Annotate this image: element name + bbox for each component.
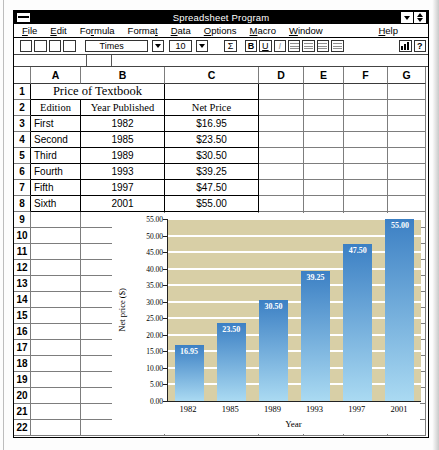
cell-D8[interactable] bbox=[259, 196, 304, 212]
row-header-20[interactable]: 20 bbox=[14, 388, 31, 404]
down-arrow-icon[interactable] bbox=[401, 12, 413, 23]
cell-D7[interactable] bbox=[259, 180, 304, 196]
menu-window[interactable]: Window bbox=[289, 25, 323, 36]
bar-1989[interactable]: 30.50 bbox=[259, 300, 288, 401]
cell-A16[interactable] bbox=[31, 324, 81, 340]
cell-A15[interactable] bbox=[31, 308, 81, 324]
menu-file[interactable]: File bbox=[22, 25, 37, 36]
cell-F5[interactable] bbox=[344, 148, 388, 164]
cell-A5[interactable]: Third bbox=[31, 148, 81, 164]
cell-title-A1[interactable]: Price of Textbook bbox=[31, 84, 165, 100]
row-header-10[interactable]: 10 bbox=[14, 228, 31, 244]
menu-data[interactable]: Data bbox=[171, 25, 191, 36]
cell-B4[interactable]: 1985 bbox=[81, 132, 165, 148]
cell-D1[interactable] bbox=[259, 84, 304, 100]
cell-B3[interactable]: 1982 bbox=[81, 116, 165, 132]
select-all-corner[interactable] bbox=[14, 67, 31, 84]
cell-A3[interactable]: First bbox=[31, 116, 81, 132]
bar-1985[interactable]: 23.50 bbox=[217, 323, 246, 401]
up-down-arrow-icon[interactable] bbox=[414, 12, 426, 23]
cell-B8[interactable]: 2001 bbox=[81, 196, 165, 212]
bold-button[interactable]: B bbox=[245, 40, 257, 52]
cell-A19[interactable] bbox=[31, 372, 81, 388]
cell-B7[interactable]: 1997 bbox=[81, 180, 165, 196]
cell-G5[interactable] bbox=[388, 148, 426, 164]
menu-formula[interactable]: Formula bbox=[80, 25, 115, 36]
cell-G3[interactable] bbox=[388, 116, 426, 132]
row-header-4[interactable]: 4 bbox=[14, 132, 31, 148]
cell-F6[interactable] bbox=[344, 164, 388, 180]
menu-options[interactable]: Options bbox=[204, 25, 237, 36]
row-header-7[interactable]: 7 bbox=[14, 180, 31, 196]
menu-format[interactable]: Format bbox=[128, 25, 158, 36]
cell-A4[interactable]: Second bbox=[31, 132, 81, 148]
help-button[interactable]: ? bbox=[414, 40, 426, 52]
menu-edit[interactable]: Edit bbox=[50, 25, 66, 36]
cell-C7[interactable]: $47.50 bbox=[165, 180, 259, 196]
italic-button[interactable]: I bbox=[274, 40, 286, 52]
cell-G7[interactable] bbox=[388, 180, 426, 196]
cell-B6[interactable]: 1993 bbox=[81, 164, 165, 180]
cell-G1[interactable] bbox=[388, 84, 426, 100]
autosum-button[interactable]: Σ bbox=[224, 40, 236, 52]
row-header-17[interactable]: 17 bbox=[14, 340, 31, 356]
col-header-B[interactable]: B bbox=[81, 67, 165, 84]
align-justify-icon[interactable] bbox=[331, 40, 343, 52]
cell-B2[interactable]: Year Published bbox=[81, 100, 165, 116]
cell-A13[interactable] bbox=[31, 276, 81, 292]
cell-G2[interactable] bbox=[388, 100, 426, 116]
row-header-18[interactable]: 18 bbox=[14, 356, 31, 372]
cell-F4[interactable] bbox=[344, 132, 388, 148]
row-header-22[interactable]: 22 bbox=[14, 420, 31, 436]
bar-1982[interactable]: 16.95 bbox=[175, 345, 204, 401]
cell-A10[interactable] bbox=[31, 228, 81, 244]
row-header-14[interactable]: 14 bbox=[14, 292, 31, 308]
row-header-3[interactable]: 3 bbox=[14, 116, 31, 132]
toolbar-blank-button-1[interactable] bbox=[20, 40, 32, 52]
cell-C8[interactable]: $55.00 bbox=[165, 196, 259, 212]
cell-D2[interactable] bbox=[259, 100, 304, 116]
cell-A9[interactable] bbox=[31, 212, 81, 228]
toolbar-blank-button-2[interactable] bbox=[34, 40, 46, 52]
formula-bar[interactable] bbox=[14, 55, 428, 67]
align-center-icon[interactable] bbox=[302, 40, 314, 52]
row-header-11[interactable]: 11 bbox=[14, 244, 31, 260]
cell-C2[interactable]: Net Price bbox=[165, 100, 259, 116]
row-header-13[interactable]: 13 bbox=[14, 276, 31, 292]
cell-D3[interactable] bbox=[259, 116, 304, 132]
embedded-chart[interactable]: 16.9523.5030.5039.2547.5055.000.005.0010… bbox=[112, 213, 420, 434]
col-header-F[interactable]: F bbox=[344, 67, 388, 84]
menu-help[interactable]: Help bbox=[378, 25, 398, 36]
col-header-G[interactable]: G bbox=[388, 67, 426, 84]
col-header-E[interactable]: E bbox=[304, 67, 344, 84]
cell-E8[interactable] bbox=[304, 196, 344, 212]
cell-C6[interactable]: $39.25 bbox=[165, 164, 259, 180]
col-header-A[interactable]: A bbox=[31, 67, 81, 84]
cell-A14[interactable] bbox=[31, 292, 81, 308]
cell-A20[interactable] bbox=[31, 388, 81, 404]
row-header-8[interactable]: 8 bbox=[14, 196, 31, 212]
cell-D4[interactable] bbox=[259, 132, 304, 148]
cell-A12[interactable] bbox=[31, 260, 81, 276]
align-left-icon[interactable] bbox=[288, 40, 300, 52]
row-header-15[interactable]: 15 bbox=[14, 308, 31, 324]
row-header-2[interactable]: 2 bbox=[14, 100, 31, 116]
row-header-6[interactable]: 6 bbox=[14, 164, 31, 180]
cell-E5[interactable] bbox=[304, 148, 344, 164]
align-right-icon[interactable] bbox=[317, 40, 329, 52]
cell-G8[interactable] bbox=[388, 196, 426, 212]
row-header-9[interactable]: 9 bbox=[14, 212, 31, 228]
toolbar-blank-button-3[interactable] bbox=[49, 40, 61, 52]
cell-A8[interactable]: Sixth bbox=[31, 196, 81, 212]
cell-F2[interactable] bbox=[344, 100, 388, 116]
cell-C4[interactable]: $23.50 bbox=[165, 132, 259, 148]
row-header-5[interactable]: 5 bbox=[14, 148, 31, 164]
cell-F7[interactable] bbox=[344, 180, 388, 196]
bar-1997[interactable]: 47.50 bbox=[343, 244, 372, 401]
cell-F8[interactable] bbox=[344, 196, 388, 212]
cell-A18[interactable] bbox=[31, 356, 81, 372]
cell-E3[interactable] bbox=[304, 116, 344, 132]
cell-G4[interactable] bbox=[388, 132, 426, 148]
cell-A17[interactable] bbox=[31, 340, 81, 356]
cell-A11[interactable] bbox=[31, 244, 81, 260]
